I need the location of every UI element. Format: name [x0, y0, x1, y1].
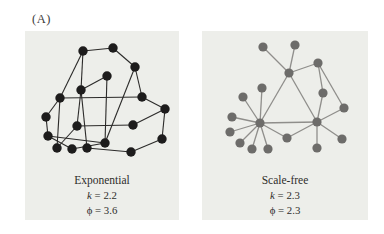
network-edge	[263, 47, 289, 73]
network-edge	[77, 90, 81, 126]
panel-exponential: Exponential k = 2.2 ϕ = 3.6	[25, 31, 179, 220]
network-edge	[131, 139, 162, 152]
caption-exponential: Exponential k = 2.2 ϕ = 3.6	[25, 173, 179, 218]
network-node	[100, 138, 109, 147]
network-node	[257, 83, 266, 92]
network-edge	[260, 88, 262, 123]
stat-equals: =	[278, 204, 284, 216]
network-node	[43, 131, 52, 140]
network-edge	[260, 73, 289, 123]
stat-value: 2.3	[286, 189, 300, 201]
network-node	[157, 134, 166, 143]
network-node	[339, 103, 348, 112]
network-node	[130, 62, 139, 71]
network-edge	[81, 51, 83, 90]
network-node	[160, 104, 169, 113]
network-edge	[287, 122, 317, 138]
network-node	[247, 144, 256, 153]
network-edge	[243, 97, 260, 123]
stat-symbol: k	[270, 189, 275, 201]
network-node	[263, 144, 272, 153]
network-node	[72, 121, 81, 130]
network-node	[318, 88, 327, 97]
stat-equals: =	[95, 204, 101, 216]
network-node	[126, 147, 135, 156]
network-node	[227, 112, 236, 121]
stat-value: 3.6	[104, 204, 118, 216]
network-node	[312, 117, 321, 126]
stat-symbol: ϕ	[270, 204, 276, 216]
network-edge	[48, 136, 105, 143]
network-edge	[87, 148, 131, 152]
network-node	[108, 43, 117, 52]
network-edge	[289, 63, 318, 73]
network-node	[255, 118, 264, 127]
network-node	[225, 127, 234, 136]
network-node	[102, 71, 111, 80]
network-edge	[289, 73, 317, 122]
network-node	[82, 143, 91, 152]
network-title: Scale-free	[202, 173, 368, 188]
stat-symbol: ϕ	[87, 204, 93, 216]
network-node	[312, 143, 321, 152]
network-edge	[133, 109, 165, 125]
stat-equals: =	[95, 189, 101, 201]
network-edge	[77, 125, 133, 126]
network-node	[337, 134, 346, 143]
network-node	[128, 120, 137, 129]
stat-symbol: k	[87, 189, 92, 201]
network-edge	[260, 122, 317, 123]
stat-k: k = 2.2	[25, 188, 179, 203]
network-node	[235, 138, 244, 147]
network-node	[238, 92, 247, 101]
network-node	[282, 133, 291, 142]
stat-phi: ϕ = 2.3	[202, 203, 368, 218]
network-node	[78, 46, 87, 55]
network-node	[41, 112, 50, 121]
network-node	[55, 93, 64, 102]
network-edge	[60, 97, 142, 98]
figure-panel-label: (A)	[32, 12, 51, 27]
network-node	[290, 40, 299, 49]
stat-value: 2.2	[103, 189, 117, 201]
network-node	[313, 58, 322, 67]
network-node	[76, 85, 85, 94]
network-edge	[81, 90, 87, 148]
network-title: Exponential	[25, 173, 179, 188]
network-node	[137, 92, 146, 101]
network-node	[284, 68, 293, 77]
stat-value: 2.3	[287, 204, 301, 216]
caption-scale-free: Scale-free k = 2.3 ϕ = 2.3	[202, 173, 368, 218]
stat-phi: ϕ = 3.6	[25, 203, 179, 218]
network-node	[67, 144, 76, 153]
network-edge	[105, 76, 107, 143]
panel-scale-free: Scale-free k = 2.3 ϕ = 2.3	[202, 31, 368, 220]
network-node	[258, 42, 267, 51]
network-node	[52, 143, 61, 152]
stat-k: k = 2.3	[202, 188, 368, 203]
stat-equals: =	[278, 189, 284, 201]
